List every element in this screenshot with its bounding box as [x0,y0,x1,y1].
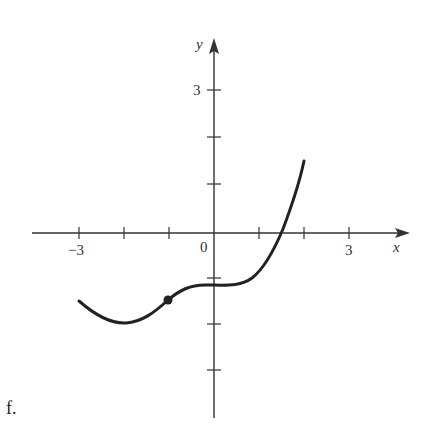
x-tick-label-3: 3 [345,242,353,258]
panel-label: f. [6,398,17,419]
function-curve [79,161,304,323]
chart-canvas: −3 0 3 3 x y [0,0,423,433]
marked-point [164,296,173,305]
y-axis-label: y [194,36,203,52]
x-tick-label-neg3: −3 [68,242,84,258]
y-tick-label-3: 3 [193,82,201,98]
x-axis-label: x [392,239,400,255]
x-tick-label-0: 0 [200,239,208,255]
